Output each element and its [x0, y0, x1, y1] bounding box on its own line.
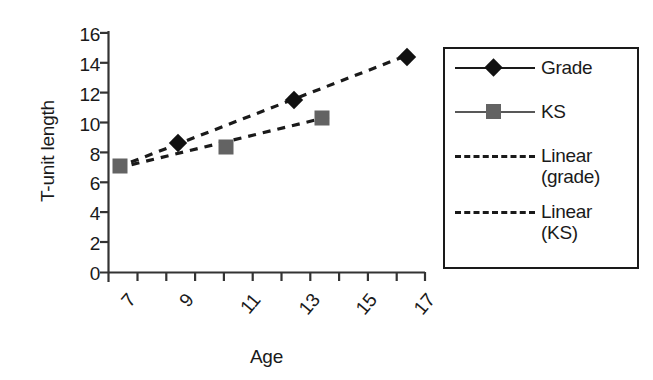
diamond-marker-icon [484, 58, 502, 76]
x-tick-label: 13 [295, 290, 323, 318]
y-axis-title: T-unit length [37, 61, 59, 241]
legend-label: Linear (KS) [537, 201, 592, 243]
legend-item-linear-ks: Linear (KS) [445, 201, 637, 249]
legend-label: KS [537, 101, 566, 122]
legend-sample-ks [453, 101, 537, 123]
x-tick-label: 7 [118, 290, 139, 310]
dashed-line-icon [455, 155, 535, 158]
x-tick-label: 17 [410, 290, 438, 318]
legend-sample-linear-ks [453, 201, 537, 223]
dashed-line-icon [455, 211, 535, 214]
legend-item-grade: Grade [445, 57, 637, 85]
x-axis-title: Age [108, 346, 425, 368]
legend-label: Linear (grade) [537, 145, 600, 187]
x-tick-label: 11 [237, 290, 264, 317]
chart-legend: Grade KS Linear (grade) Linear (KS) [443, 47, 639, 269]
x-tick-label: 15 [352, 290, 380, 318]
legend-item-ks: KS [445, 101, 637, 129]
square-marker-icon [486, 104, 501, 119]
chart-figure: 16 14 12 10 8 6 4 2 0 7 9 11 13 15 17 T-… [0, 0, 653, 380]
legend-sample-grade [453, 57, 537, 79]
x-tick-label: 9 [176, 290, 197, 310]
legend-label: Grade [537, 57, 592, 78]
legend-sample-linear-grade [453, 145, 537, 167]
legend-item-linear-grade: Linear (grade) [445, 145, 637, 193]
